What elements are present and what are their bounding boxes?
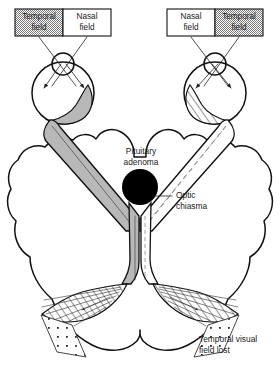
right-eyeball [184,53,246,124]
right-ray-arrow-nasal-retina [196,64,218,88]
field-loss-callout: Temporal visual field lost [199,334,257,355]
right-temporal-field-label-line2: field [231,23,246,32]
right-temporal-field-label-line1: Temporal [222,12,256,21]
pituitary-adenoma-label-line2: adenoma [124,157,159,167]
left-visual-field-box: Temporal field Nasal field [15,9,111,36]
left-nasal-field-label-line1: Nasal [77,12,98,21]
pituitary-adenoma-mass [122,169,158,205]
right-visual-field-box: Nasal field Temporal field [167,9,263,36]
right-radiation-fan [153,284,238,322]
left-temporal-field-label-line2: field [31,23,46,32]
right-lens [204,53,226,75]
left-radiation-fan [42,284,127,322]
diagram-canvas: Temporal field Nasal field Nasal field T… [0,0,280,379]
optic-chiasma-label-line2: chiasma [176,201,208,211]
optic-chiasma-label-line1: Optic [176,190,196,200]
pituitary-adenoma-callout: Pituitary adenoma [124,146,159,167]
left-optic-nerve [44,120,138,231]
right-nasal-field-label-line2: field [183,23,198,32]
left-temporal-field-label-line1: Temporal [22,12,56,21]
left-optic-nerve-body [44,120,138,231]
field-loss-label-line2: field lost [199,345,230,355]
left-lens [52,53,74,75]
pituitary-adenoma-label-line1: Pituitary [126,146,157,156]
field-loss-label-line1: Temporal visual [199,334,257,344]
right-nasal-field-label-line1: Nasal [181,12,202,21]
left-nasal-field-label-line2: field [79,23,94,32]
left-eyeball [32,53,94,124]
pituitary-adenoma-visual-pathway-diagram: Temporal field Nasal field Nasal field T… [0,0,280,379]
right-retina-hatched [186,85,228,124]
pituitary-adenoma [122,169,158,205]
left-retina-shaded [50,85,92,124]
left-nerve-midline [52,126,131,224]
